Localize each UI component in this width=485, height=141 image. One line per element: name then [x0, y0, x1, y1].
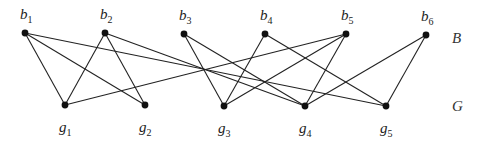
node-label-b5: b5: [341, 7, 354, 26]
set-label-g: G: [452, 98, 463, 114]
node-label-b1: b1: [20, 6, 33, 25]
node-g2: [142, 102, 149, 109]
node-label-b3: b3: [179, 7, 192, 26]
node-label-g4: g4: [299, 120, 312, 139]
node-b4: [262, 31, 269, 38]
node-g4: [302, 103, 309, 110]
node-label-g3: g3: [218, 120, 231, 139]
edge-b5-g1: [65, 34, 346, 105]
edge-b5-g3: [224, 34, 346, 106]
node-b2: [102, 30, 109, 37]
node-label-g2: g2: [139, 119, 152, 138]
edge-b6-g4: [305, 35, 426, 106]
node-label-b4: b4: [260, 7, 273, 26]
edge-b6-g5: [386, 35, 426, 106]
node-b6: [423, 32, 430, 39]
node-label-g1: g1: [59, 119, 72, 138]
node-g1: [62, 102, 69, 109]
labels-layer: b1b2b3b4b5b6g1g2g3g4g5: [20, 6, 434, 139]
edge-b1-g1: [25, 33, 65, 105]
edge-b2-g2: [105, 33, 145, 105]
node-label-g5: g5: [380, 120, 393, 139]
node-label-b6: b6: [421, 8, 434, 27]
edges-layer: [25, 33, 426, 106]
node-b1: [22, 30, 29, 37]
edge-b4-g3: [224, 34, 265, 106]
edge-b5-g4: [305, 34, 346, 106]
node-b5: [343, 31, 350, 38]
node-g3: [221, 103, 228, 110]
bipartite-graph: b1b2b3b4b5b6g1g2g3g4g5 B G: [0, 0, 485, 141]
node-label-b2: b2: [100, 6, 113, 25]
node-g5: [383, 103, 390, 110]
set-label-b: B: [452, 30, 461, 46]
edge-b2-g1: [65, 33, 105, 105]
node-b3: [181, 31, 188, 38]
